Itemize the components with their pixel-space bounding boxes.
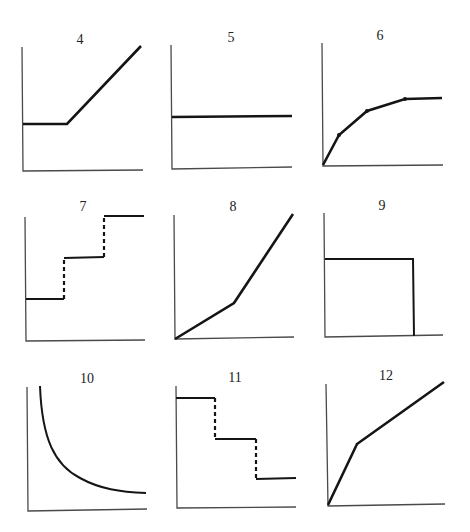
panel-label: 6 (377, 28, 384, 43)
axes (171, 45, 292, 169)
axes (25, 217, 145, 341)
panel-label: 5 (228, 30, 235, 45)
graph-grid: 4 5 6 7 8 9 10 (0, 0, 470, 532)
panel-label: 12 (379, 368, 393, 383)
panel-5: 5 (171, 30, 292, 169)
axes (326, 384, 445, 506)
step (256, 478, 296, 479)
panel-10: 10 (27, 371, 147, 511)
curve (40, 386, 146, 493)
panel-label: 11 (228, 370, 241, 385)
curve (172, 116, 292, 117)
panel-9: 9 (324, 198, 443, 337)
panel-6: 6 (322, 28, 443, 166)
panel-8: 8 (174, 199, 294, 339)
panel-label: 7 (80, 199, 87, 214)
kink-marker (403, 97, 407, 101)
step (64, 257, 104, 258)
panel-12: 12 (326, 368, 445, 506)
axes (322, 43, 443, 166)
curve (323, 98, 442, 165)
curve (325, 259, 414, 336)
panel-label: 10 (80, 371, 94, 386)
axes (176, 386, 296, 508)
kink-marker (365, 109, 369, 113)
curve (328, 382, 444, 505)
panel-4: 4 (22, 32, 143, 171)
panel-11: 11 (176, 370, 296, 508)
axes (174, 215, 294, 339)
curve (175, 214, 293, 339)
panel-7: 7 (25, 199, 145, 341)
kink-marker (337, 133, 341, 137)
axes (324, 213, 443, 337)
curve (23, 46, 141, 124)
panel-label: 4 (77, 32, 84, 47)
panel-label: 8 (230, 199, 237, 214)
panel-label: 9 (379, 198, 386, 213)
